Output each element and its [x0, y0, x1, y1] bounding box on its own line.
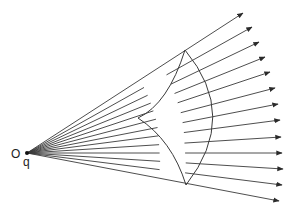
field-line	[27, 119, 156, 153]
field-lines	[27, 13, 283, 201]
origin-label: O	[11, 148, 20, 160]
inner-concave-surface	[138, 50, 186, 185]
field-line-arrow	[184, 137, 281, 143]
field-line-arrow	[171, 42, 259, 84]
field-line-arrow	[185, 173, 282, 185]
field-lines-figure	[0, 0, 291, 218]
field-line-arrow	[183, 104, 278, 123]
field-line	[27, 95, 148, 153]
charge-label: q	[23, 156, 30, 168]
field-line-arrow	[178, 72, 270, 103]
field-line	[27, 153, 279, 201]
field-line-arrow	[184, 120, 280, 133]
field-line-arrow	[181, 88, 275, 113]
field-line	[27, 103, 151, 153]
field-line	[27, 136, 159, 153]
field-line	[27, 153, 160, 170]
